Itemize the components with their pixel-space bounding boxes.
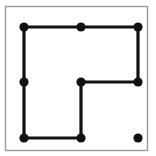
dot-node-top-right[interactable] [133, 22, 142, 31]
puzzle-canvas [0, 0, 156, 156]
dot-node-top-left[interactable] [19, 22, 28, 31]
dot-node-middle-left[interactable] [19, 77, 28, 86]
dot-node-bottom-center[interactable] [76, 133, 85, 142]
dot-path-diagram [0, 0, 156, 156]
dot-node-bottom-right[interactable] [133, 133, 142, 142]
dot-node-middle-center[interactable] [76, 77, 85, 86]
dot-node-middle-right[interactable] [133, 77, 142, 86]
dot-node-top-center[interactable] [76, 22, 85, 31]
dot-node-bottom-left[interactable] [19, 133, 28, 142]
